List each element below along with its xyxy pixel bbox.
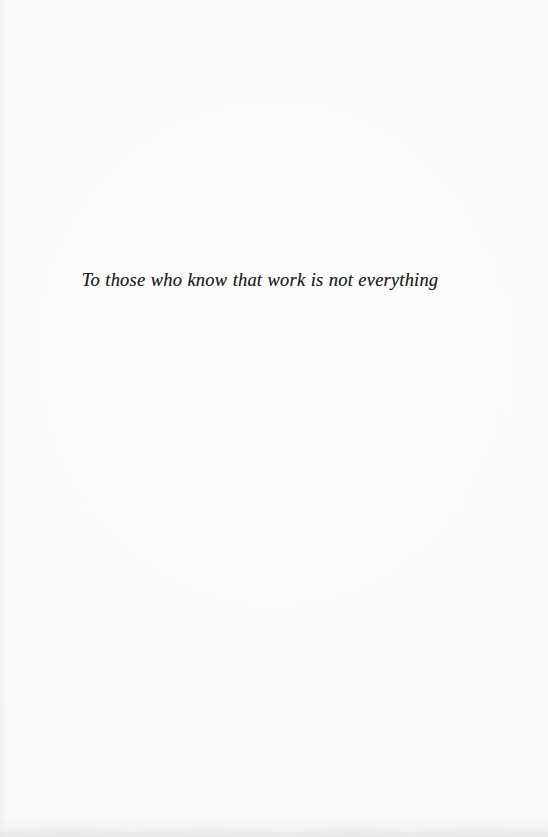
dedication-text: To those who know that work is not every… — [82, 268, 439, 292]
scan-edge-shadow-left — [0, 0, 6, 837]
dedication-block: To those who know that work is not every… — [0, 268, 548, 292]
scan-shadow-bottom — [0, 815, 548, 837]
paper-texture-overlay — [0, 0, 548, 837]
book-page: To those who know that work is not every… — [0, 0, 548, 837]
